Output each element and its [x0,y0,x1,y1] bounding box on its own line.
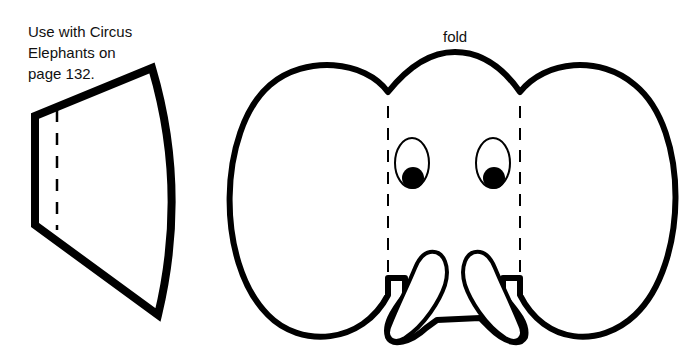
right-eye-pupil [483,167,505,189]
right-eye [476,138,510,189]
left-eye [395,138,429,189]
trunk-piece-outline [35,68,172,315]
left-eye-pupil [402,167,424,189]
craft-template-drawing [0,0,699,363]
trunk-piece [35,68,172,315]
elephant-face-outline [230,52,676,342]
elephant-face-piece [230,52,676,342]
